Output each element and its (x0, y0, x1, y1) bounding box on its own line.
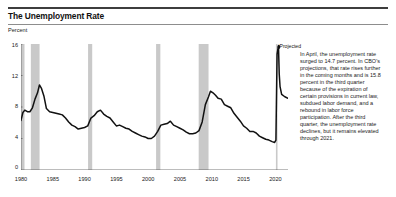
y-tick-0: 0 (5, 164, 18, 170)
x-tick-1980: 1980 (8, 176, 34, 182)
y-tick-4: 4 (5, 134, 18, 140)
top-divider-rule (8, 7, 388, 9)
recession-bands-group (21, 44, 278, 170)
x-tick-2005: 2005 (167, 176, 193, 182)
x-tick-1995: 1995 (103, 176, 129, 182)
title-divider-rule (8, 24, 388, 25)
x-tick-1990: 1990 (72, 176, 98, 182)
x-tick-2000: 2000 (135, 176, 161, 182)
figure-container: The Unemployment Rate Percent 16 12 8 4 … (0, 0, 396, 197)
unemployment-line-chart (21, 44, 288, 170)
y-tick-12: 12 (5, 73, 18, 79)
projected-label: Projected (280, 43, 302, 49)
recession-band (156, 44, 160, 170)
x-tick-2010: 2010 (199, 176, 225, 182)
figure-title: The Unemployment Rate (8, 11, 104, 21)
recession-band (88, 44, 92, 170)
unemployment-rate-line (21, 46, 288, 143)
figure-note-text: In April, the unemployment rate surged t… (300, 51, 384, 142)
y-tick-8: 8 (5, 103, 18, 109)
recession-band (199, 44, 209, 170)
axes-group (21, 44, 288, 170)
y-axis-unit-label: Percent (8, 27, 27, 33)
chart-plot-area (21, 44, 288, 170)
x-tick-1985: 1985 (40, 176, 66, 182)
y-tick-16: 16 (5, 42, 18, 48)
x-tick-2015: 2015 (231, 176, 257, 182)
x-tick-2020: 2020 (262, 176, 288, 182)
